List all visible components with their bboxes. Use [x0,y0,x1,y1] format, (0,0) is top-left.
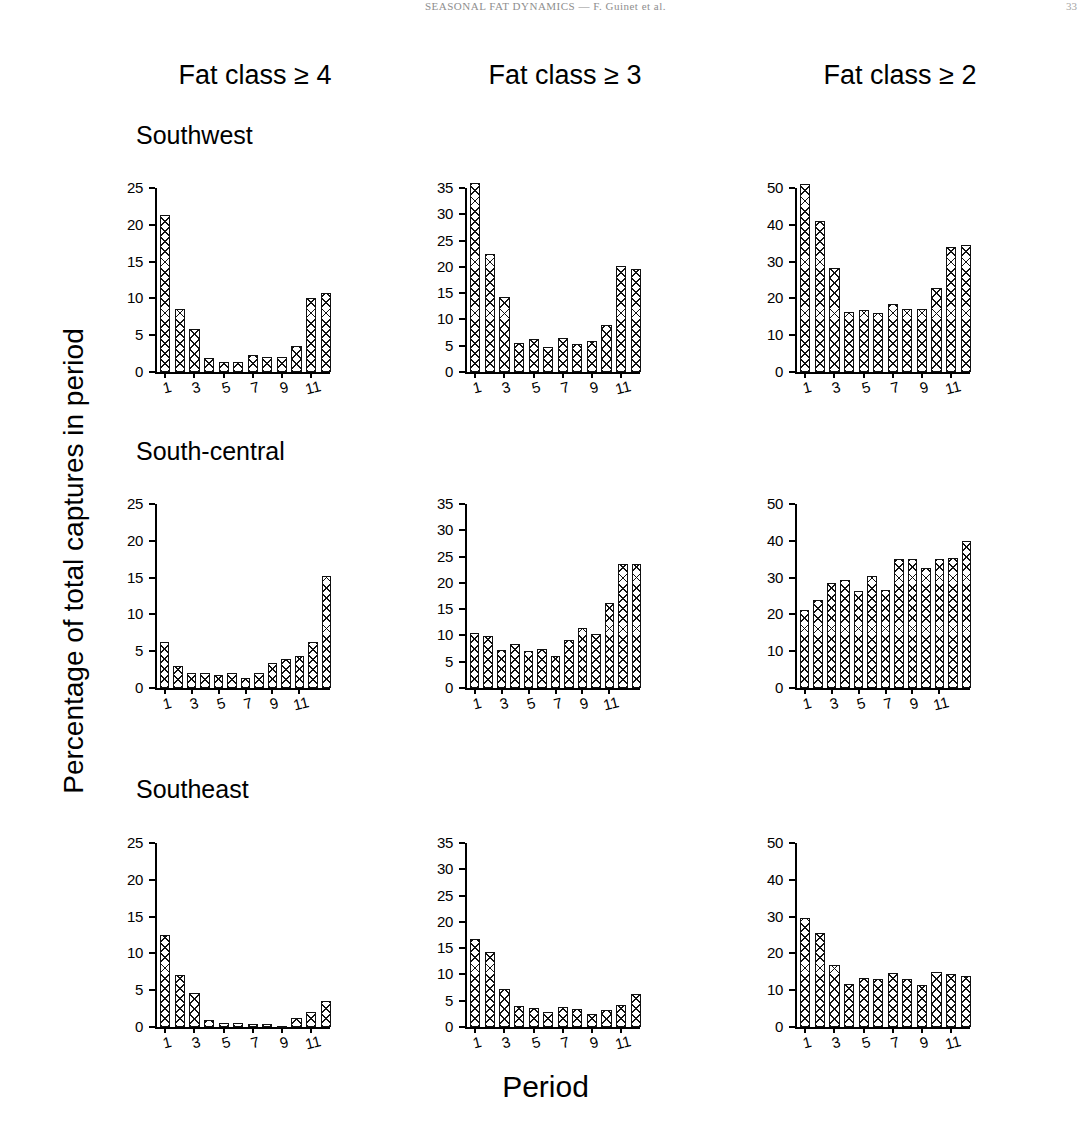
bar [200,673,209,688]
bar [631,269,641,372]
y-tick-label: 15 [417,600,453,617]
y-tick [459,345,465,347]
x-tick-label: 3 [827,377,847,397]
bar [962,541,971,688]
x-tick [245,689,247,694]
x-tick-label: 9 [584,377,604,397]
x-tick-label: 1 [158,1032,178,1052]
bar [800,610,809,688]
x-tick [892,1028,894,1033]
y-tick-label: 0 [417,1018,453,1035]
x-axis-line [465,1027,640,1029]
x-tick-label: 7 [245,1032,265,1052]
y-tick [149,261,155,263]
x-tick [252,1028,254,1033]
bar [499,989,509,1027]
y-tick [459,582,465,584]
y-tick [789,334,795,336]
y-tick [789,371,795,373]
y-tick [149,1026,155,1028]
x-tick [193,373,195,378]
x-tick [562,1028,564,1033]
x-tick [833,1028,835,1033]
y-tick-label: 30 [417,205,453,222]
y-tick-label: 35 [417,495,453,512]
bar [268,663,277,688]
y-tick [789,577,795,579]
y-tick [149,952,155,954]
y-tick-label: 5 [417,337,453,354]
y-tick [459,921,465,923]
x-tick-label: 1 [468,1032,488,1052]
y-tick [789,613,795,615]
row-title-southwest: Southwest [136,121,253,150]
y-tick-label: 10 [417,965,453,982]
bar [262,357,272,372]
y-tick [459,1026,465,1028]
y-tick-label: 0 [417,363,453,380]
x-tick-label: 3 [827,1032,847,1052]
bar [881,590,890,688]
bar [485,254,495,372]
y-tick-label: 40 [747,532,783,549]
y-tick-label: 5 [107,981,143,998]
y-tick-label: 20 [107,532,143,549]
x-tick-label: 11 [613,377,633,397]
x-tick [533,373,535,378]
y-tick [459,292,465,294]
y-tick-label: 10 [747,981,783,998]
y-tick-label: 25 [107,179,143,196]
bar [902,979,912,1027]
x-tick-label: 11 [932,693,952,713]
x-axis-line [465,688,640,690]
x-tick-label: 3 [824,693,844,713]
x-tick-label: 9 [265,693,285,713]
y-tick [149,989,155,991]
figure-panel-grid: Fat class ≥ 4 Fat class ≥ 3 Fat class ≥ … [0,0,1091,1136]
bar [917,309,927,372]
y-tick [459,187,465,189]
bar [306,1012,316,1027]
x-tick-label: 11 [303,377,323,397]
bar [308,642,317,688]
bar [499,297,509,372]
bar [844,312,854,372]
y-tick [789,1026,795,1028]
y-tick [789,540,795,542]
bar [616,266,626,372]
x-tick [528,689,530,694]
bar [321,1001,331,1027]
y-tick [789,650,795,652]
y-tick [149,687,155,689]
y-tick [789,187,795,189]
bar [189,993,199,1027]
chart-panel: 010203040501357911 [795,188,1010,422]
bar [813,600,822,688]
y-tick [789,503,795,505]
bar [961,976,971,1027]
y-tick [149,577,155,579]
x-tick [298,689,300,694]
bar [219,1023,229,1027]
y-tick [459,895,465,897]
x-tick-label: 1 [798,377,818,397]
y-tick [149,540,155,542]
y-tick-label: 25 [417,548,453,565]
x-tick [831,689,833,694]
bar [173,666,182,688]
x-tick [503,1028,505,1033]
y-tick [459,266,465,268]
y-tick-label: 50 [747,495,783,512]
x-tick-label: 7 [548,693,568,713]
x-tick [858,689,860,694]
bar [587,341,597,372]
bar [815,933,825,1027]
bar [160,935,170,1027]
x-tick-label: 1 [467,693,487,713]
y-tick-label: 35 [417,834,453,851]
y-tick-label: 20 [747,289,783,306]
y-tick-label: 20 [747,605,783,622]
chart-panel: 051015202530351357911 [465,188,680,422]
x-tick [271,689,273,694]
x-tick [833,373,835,378]
